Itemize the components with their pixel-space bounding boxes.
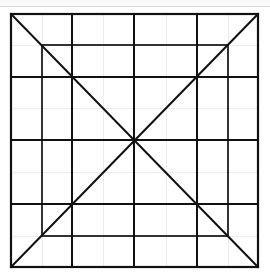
geometric-square-diagram [0, 0, 270, 276]
